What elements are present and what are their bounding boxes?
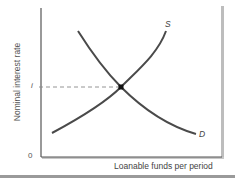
demand-curve <box>78 31 196 134</box>
supply-curve-label: S <box>165 19 171 29</box>
y-axis-label: Nominal interest rate <box>12 43 22 121</box>
x-axis-label: Loanable funds per period <box>114 161 213 171</box>
equilibrium-point <box>119 85 124 90</box>
chart-canvas <box>0 0 235 181</box>
panel-shadow-right <box>221 6 224 158</box>
supply-demand-chart: Nominal interest rate Loanable funds per… <box>0 0 235 181</box>
origin-label: 0 <box>28 151 32 160</box>
demand-curve-label: D <box>199 129 205 139</box>
interest-rate-marker-label: i <box>31 81 33 90</box>
bottom-separator <box>0 175 235 178</box>
supply-curve <box>52 31 166 133</box>
